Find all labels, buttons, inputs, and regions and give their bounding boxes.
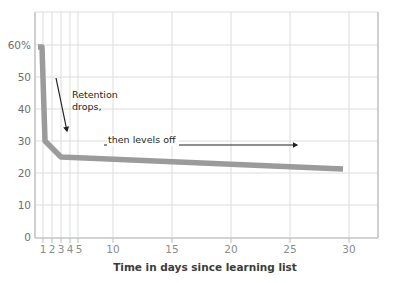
x-tick-label-10: 10	[106, 243, 119, 255]
forgetting-curve-chart: 60% 50 40 30 20 10 0 1 2 3 4 5 10 15 20 …	[0, 0, 409, 283]
x-tick-label-20: 20	[224, 243, 237, 255]
x-tick-label-5: 5	[76, 243, 83, 255]
y-tick-label-30: 30	[18, 135, 31, 147]
x-tick-label-2: 2	[49, 243, 56, 255]
x-tick-label-3: 3	[58, 243, 65, 255]
y-tick-label-50: 50	[18, 71, 31, 83]
plot-background	[35, 12, 378, 238]
y-tick-label-0: 0	[24, 231, 31, 243]
y-tick-label-10: 10	[18, 199, 31, 211]
then-levels-off-label: then levels off	[108, 134, 176, 145]
x-tick-label-1: 1	[40, 243, 47, 255]
x-tick-label-15: 15	[165, 243, 178, 255]
retention-drops-label-line1: Retention	[72, 89, 118, 100]
x-tick-label-25: 25	[283, 243, 296, 255]
retention-drops-label-line2: drops,	[72, 101, 102, 112]
y-tick-label-40: 40	[18, 103, 31, 115]
y-tick-label-20: 20	[18, 167, 31, 179]
x-tick-label-30: 30	[342, 243, 355, 255]
x-tick-label-4: 4	[67, 243, 74, 255]
chart-canvas: 60% 50 40 30 20 10 0 1 2 3 4 5 10 15 20 …	[0, 0, 409, 283]
y-tick-label-60: 60%	[8, 39, 31, 51]
x-axis-title: Time in days since learning list	[113, 261, 297, 273]
